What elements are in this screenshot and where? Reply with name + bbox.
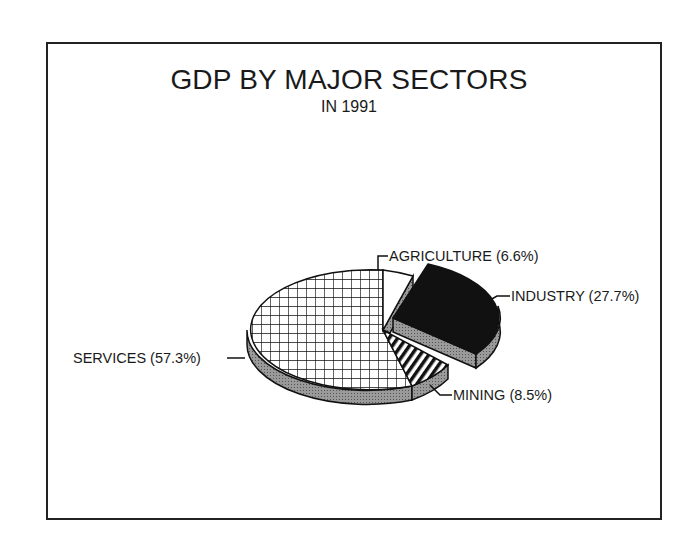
pie-chart — [0, 0, 698, 550]
label-agriculture: AGRICULTURE (6.6%) — [389, 248, 539, 264]
label-services: SERVICES (57.3%) — [73, 350, 201, 366]
label-industry: INDUSTRY (27.7%) — [511, 288, 639, 304]
label-mining: MINING (8.5%) — [453, 387, 552, 403]
agriculture-leader — [378, 256, 388, 270]
